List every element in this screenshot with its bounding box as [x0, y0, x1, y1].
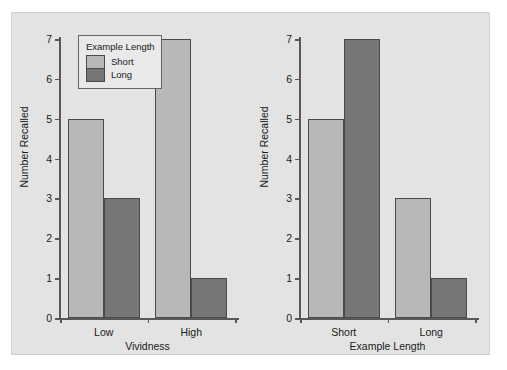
x-tick-mark [60, 318, 62, 323]
legend-label-short: Short [111, 55, 134, 68]
y-tick-label: 0 [286, 312, 292, 324]
x-tick-label: High [180, 326, 202, 338]
chart-panel-left: 01234567 Number Recalled Vividness Examp… [12, 13, 251, 356]
y-tick-mark [295, 39, 300, 41]
y-tick-label: 5 [286, 113, 292, 125]
y-tick-label: 1 [286, 272, 292, 284]
y-tick-label: 7 [46, 33, 52, 45]
y-tick-label: 2 [286, 232, 292, 244]
y-tick-label: 3 [286, 192, 292, 204]
x-tick-mark [235, 318, 237, 323]
x-axis-title-left: Vividness [60, 340, 235, 352]
x-tick-mark [475, 318, 477, 323]
legend-body-left: Short Long [86, 55, 153, 82]
x-tick-label: Short [331, 326, 356, 338]
y-tick-mark [55, 39, 60, 41]
x-tick-mark [148, 318, 150, 323]
legend-label-long: Long [111, 68, 134, 81]
y-tick-mark [295, 238, 300, 240]
y-axis-title-right: Number Recalled [258, 67, 270, 227]
bar [431, 278, 467, 318]
y-tick-label: 0 [46, 312, 52, 324]
y-tick-mark [55, 79, 60, 81]
y-tick-label: 4 [286, 153, 292, 165]
y-tick-mark [55, 278, 60, 280]
y-tick-label: 7 [286, 33, 292, 45]
y-tick-label: 5 [46, 113, 52, 125]
legend-title-left: Example Length [86, 41, 153, 52]
plot-area-right: 01234567 [300, 39, 475, 318]
y-tick-label: 6 [286, 73, 292, 85]
x-axis-title-right: Example Length [300, 340, 475, 352]
y-tick-label: 4 [46, 153, 52, 165]
legend-swatch-short [87, 56, 104, 68]
bar [68, 119, 104, 318]
y-tick-mark [55, 238, 60, 240]
y-tick-mark [55, 119, 60, 121]
y-tick-label: 1 [46, 272, 52, 284]
y-tick-label: 3 [46, 192, 52, 204]
y-axis-title-left: Number Recalled [18, 67, 30, 227]
x-tick-label: Long [420, 326, 443, 338]
figure-panel: 01234567 Number Recalled Vividness Examp… [11, 12, 490, 355]
chart-panel-right: 01234567 Number Recalled Example Length … [252, 13, 491, 356]
bar [308, 119, 344, 318]
legend-left: Example Length Short Long [78, 35, 162, 89]
y-tick-label: 2 [46, 232, 52, 244]
y-tick-mark [295, 119, 300, 121]
x-tick-mark [300, 318, 302, 323]
y-tick-mark [295, 278, 300, 280]
y-tick-mark [55, 198, 60, 200]
x-axis-line-right [299, 318, 479, 320]
legend-labels-left: Short Long [111, 55, 134, 82]
bar [191, 278, 227, 318]
bar [395, 198, 431, 318]
bar [344, 39, 380, 318]
y-tick-mark [295, 79, 300, 81]
x-axis-line-left [59, 318, 239, 320]
y-tick-label: 6 [46, 73, 52, 85]
y-tick-mark [295, 198, 300, 200]
x-tick-label: Low [94, 326, 113, 338]
legend-swatch-long [87, 68, 104, 81]
y-tick-mark [295, 159, 300, 161]
x-tick-mark [388, 318, 390, 323]
y-tick-mark [55, 159, 60, 161]
bar [104, 198, 140, 318]
legend-swatches-left [86, 55, 105, 82]
